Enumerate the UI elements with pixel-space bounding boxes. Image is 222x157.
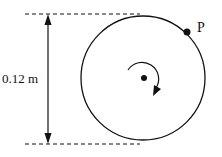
point-p-label: P <box>197 20 205 36</box>
dimension-label: 0.12 m <box>2 71 38 87</box>
point-p-dot <box>184 29 191 36</box>
center-dot <box>141 75 147 81</box>
dimension-arrow <box>45 14 52 144</box>
